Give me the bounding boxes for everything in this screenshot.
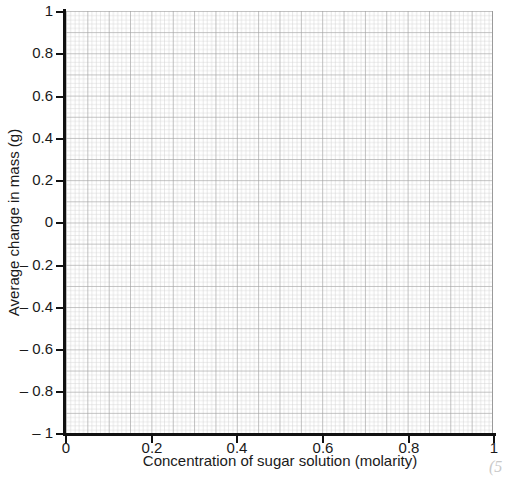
y-tick-0-8 xyxy=(56,53,63,55)
y-tick-label-0: 0 xyxy=(0,214,53,230)
y-tick-0-6 xyxy=(56,96,63,98)
y-tick-label-neg-0-2: – 0.2 xyxy=(0,257,53,273)
y-tick-neg-0-4 xyxy=(56,307,63,309)
x-axis-line xyxy=(63,433,496,436)
y-tick-label-neg-0-8: – 0.8 xyxy=(0,383,53,399)
y-tick-label-neg-0-6: – 0.6 xyxy=(0,341,53,357)
y-tick-0-2 xyxy=(56,180,63,182)
y-tick-label-0-6: 0.6 xyxy=(0,88,53,104)
y-tick-neg-0-8 xyxy=(56,391,63,393)
y-tick-neg-0-6 xyxy=(56,349,63,351)
y-tick-label-0-2: 0.2 xyxy=(0,172,53,188)
plot-area xyxy=(66,11,493,434)
y-tick-label-neg-0-4: – 0.4 xyxy=(0,299,53,315)
y-tick-neg-0-2 xyxy=(56,265,63,267)
y-tick-1 xyxy=(56,11,63,13)
y-tick-neg-1 xyxy=(56,433,63,435)
y-tick-label-1: 1 xyxy=(0,3,53,19)
y-tick-0-4 xyxy=(56,138,63,140)
y-tick-label-0-4: 0.4 xyxy=(0,130,53,146)
corner-watermark: (5 xyxy=(489,458,509,480)
y-axis-line xyxy=(63,9,66,436)
y-tick-label-neg-1: – 1 xyxy=(0,425,53,441)
y-tick-label-0-8: 0.8 xyxy=(0,45,53,61)
y-tick-0 xyxy=(56,222,63,224)
grid-svg xyxy=(66,11,493,434)
x-axis-title: Concentration of sugar solution (molarit… xyxy=(66,452,494,469)
graph-figure: Average change in mass (g) xyxy=(0,0,509,480)
